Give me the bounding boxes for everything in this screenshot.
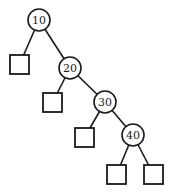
tree-node-10: 10 [28, 9, 50, 31]
tree-leaves [10, 55, 163, 184]
null-leaf-square [75, 128, 94, 147]
tree-node-30: 30 [94, 91, 116, 113]
node-label: 20 [63, 62, 77, 75]
tree-edges [20, 20, 154, 175]
tree-node-20: 20 [59, 57, 81, 79]
tree-node-40: 40 [122, 124, 144, 146]
null-leaf-square [10, 55, 29, 74]
tree-nodes: 10203040 [28, 9, 144, 146]
null-leaf-square [144, 165, 163, 184]
node-label: 10 [32, 14, 46, 27]
null-leaf-square [43, 93, 62, 112]
node-label: 30 [98, 96, 112, 109]
tree-diagram: 10203040 [0, 0, 172, 195]
node-label: 40 [126, 129, 140, 142]
null-leaf-square [107, 165, 126, 184]
